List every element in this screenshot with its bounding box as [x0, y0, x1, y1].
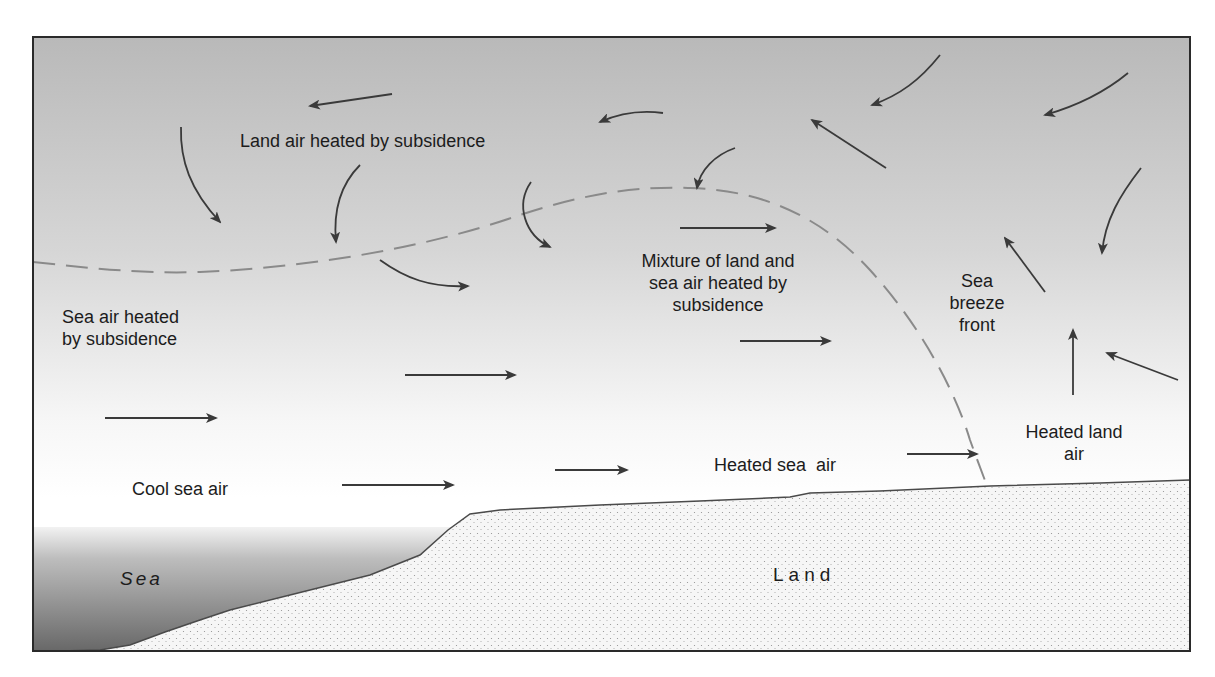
label-land-air-heated: Land air heated by subsidence [240, 130, 485, 152]
diagram-canvas [0, 0, 1215, 677]
label-land: Land [773, 564, 835, 586]
label-heated-land-air: Heated land air [1025, 421, 1122, 465]
label-sea: Sea [120, 568, 163, 590]
label-mixture: Mixture of land and sea air heated by su… [641, 250, 794, 316]
sea-breeze-diagram: Land air heated by subsidence Mixture of… [0, 0, 1215, 677]
label-heated-sea-air: Heated sea air [714, 454, 836, 476]
label-cool-sea-air: Cool sea air [132, 478, 228, 500]
label-sea-air-heated: Sea air heated by subsidence [62, 306, 179, 350]
label-sea-breeze-front: Sea breeze front [949, 270, 1004, 336]
